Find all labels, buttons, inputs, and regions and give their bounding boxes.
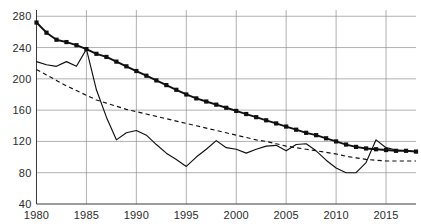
x-tick-label: 1980 (24, 209, 49, 221)
line-chart: 4080120160200240280 19801985199019952000… (0, 0, 421, 224)
data-point-marker (114, 60, 118, 64)
y-axis-tick-labels: 4080120160200240280 (13, 10, 32, 210)
x-tick-label: 2000 (224, 209, 249, 221)
data-point-marker (344, 142, 348, 146)
data-point-marker (284, 124, 288, 128)
data-point-marker (374, 147, 378, 151)
data-point-marker (224, 106, 228, 110)
y-tick-label: 80 (19, 167, 32, 179)
data-point-marker (354, 145, 358, 149)
data-point-marker (134, 69, 138, 73)
y-tick-label: 120 (13, 135, 32, 147)
gridlines (37, 16, 417, 172)
chart-container: 4080120160200240280 19801985199019952000… (0, 0, 421, 224)
data-point-marker (244, 112, 248, 116)
data-point-marker (214, 103, 218, 107)
x-tick-label: 1995 (174, 209, 199, 221)
data-point-marker (74, 43, 78, 47)
data-point-marker (44, 31, 48, 35)
x-tick-label: 1990 (124, 209, 149, 221)
y-tick-label: 160 (13, 104, 32, 116)
series-thin-solid (37, 49, 417, 173)
data-point-marker (304, 131, 308, 135)
x-tick-label: 2015 (373, 209, 398, 221)
x-axis-tick-labels: 19801985199019952000200520102015 (24, 209, 399, 221)
data-point-marker (174, 88, 178, 92)
data-point-marker (144, 74, 148, 78)
x-tick-label: 2005 (274, 209, 299, 221)
data-point-marker (364, 146, 368, 150)
data-point-marker (334, 139, 338, 143)
data-series (34, 20, 418, 172)
data-point-marker (314, 133, 318, 137)
data-point-marker (164, 83, 168, 87)
data-point-marker (264, 118, 268, 122)
data-point-marker (254, 115, 258, 119)
x-tick-label: 1985 (74, 209, 99, 221)
data-point-marker (104, 55, 108, 59)
x-tick-label: 2010 (323, 209, 348, 221)
data-point-marker (324, 136, 328, 140)
x-axis-ticks (86, 10, 386, 204)
y-tick-label: 200 (13, 73, 32, 85)
data-point-marker (204, 99, 208, 103)
data-point-marker (234, 109, 238, 113)
data-point-marker (194, 96, 198, 100)
y-tick-label: 240 (13, 42, 32, 54)
data-point-marker (94, 52, 98, 56)
data-point-marker (124, 64, 128, 68)
data-point-marker (294, 128, 298, 132)
data-point-marker (64, 40, 68, 44)
data-point-marker (34, 20, 38, 24)
data-point-marker (274, 121, 278, 125)
data-point-marker (154, 78, 158, 82)
data-point-marker (54, 38, 58, 42)
data-point-marker (184, 92, 188, 96)
y-tick-label: 280 (13, 10, 32, 22)
